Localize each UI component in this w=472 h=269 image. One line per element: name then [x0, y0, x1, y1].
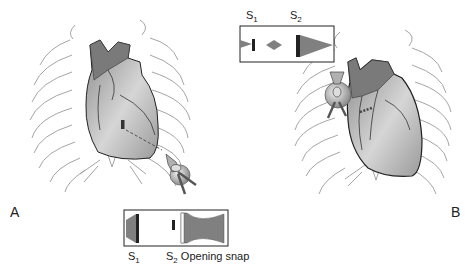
panel-a-label: A [10, 204, 19, 220]
panel-b-phonogram [240, 26, 334, 62]
s1-sound-bar [252, 39, 255, 51]
panel-a-s1-label: S1 [128, 250, 140, 265]
panel-b-heart [347, 58, 422, 176]
s2-sound-bar [172, 220, 175, 230]
panel-a-phonogram [124, 210, 228, 246]
panel-a-s2-opening-snap-label: S2 Opening snap [166, 250, 249, 265]
panel-a-heart [86, 40, 162, 159]
panel-b-label: B [451, 204, 460, 220]
cardiac-auscultation-diagram [0, 0, 472, 269]
panel-b-s1-label: S1 [246, 9, 258, 24]
s2-sound-bar [296, 35, 300, 57]
s1-sound-bar [136, 214, 139, 243]
panel-a-stethoscope-icon [166, 154, 196, 194]
valve-marker [121, 120, 125, 129]
panel-b-s2-label: S2 [290, 9, 302, 24]
